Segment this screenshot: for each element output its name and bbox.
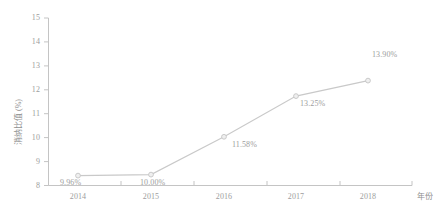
x-axis-title: 年份 (417, 190, 433, 201)
y-tick-label-9: 9 (20, 157, 40, 166)
data-label-2018: 13.90% (372, 50, 397, 59)
line-chart: 8 9 10 11 12 13 14 15 2014 2015 2016 201… (0, 0, 442, 224)
data-label-2014: 9.96% (60, 178, 81, 187)
data-point-2017 (294, 94, 299, 99)
data-label-2016: 11.58% (232, 140, 257, 149)
y-tick-label-8: 8 (20, 181, 40, 190)
y-axis-ticks (44, 18, 49, 186)
data-line (78, 81, 368, 176)
data-point-2018 (366, 78, 371, 83)
y-tick-label-12: 12 (20, 85, 40, 94)
data-label-2017: 13.25% (300, 99, 325, 108)
data-markers (76, 78, 371, 178)
y-tick-label-15: 15 (20, 13, 40, 22)
data-label-2015: 10.00% (140, 178, 165, 187)
x-tick-label-2016: 2016 (204, 192, 244, 201)
data-point-2016 (222, 134, 227, 139)
x-tick-label-2014: 2014 (58, 192, 98, 201)
x-tick-label-2017: 2017 (276, 192, 316, 201)
y-tick-label-14: 14 (20, 37, 40, 46)
x-axis-ticks (49, 181, 413, 186)
y-tick-label-11: 11 (20, 109, 40, 118)
y-tick-label-10: 10 (20, 133, 40, 142)
data-point-2015 (149, 172, 154, 177)
y-axis-title: 消纳比值 (%) (12, 99, 23, 145)
chart-canvas (0, 0, 442, 224)
x-tick-label-2015: 2015 (131, 192, 171, 201)
y-tick-label-13: 13 (20, 61, 40, 70)
x-tick-label-2018: 2018 (348, 192, 388, 201)
